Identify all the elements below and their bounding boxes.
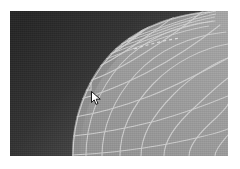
mesh-viewport[interactable] [10, 11, 228, 156]
screenshot-root [0, 0, 240, 169]
mesh-render-canvas[interactable] [10, 11, 228, 156]
